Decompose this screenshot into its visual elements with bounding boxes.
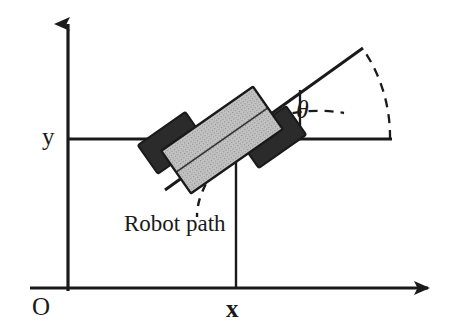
robot-pose-figure: y O x θ Robot path [0, 0, 459, 325]
y-axis-label: y [42, 124, 55, 149]
diagram-canvas [0, 0, 459, 325]
origin-label: O [32, 294, 50, 319]
robot-vehicle [138, 63, 306, 218]
robot-path-label: Robot path [124, 212, 226, 235]
heading-angle-label: θ [296, 97, 309, 123]
x-axis-label: x [226, 296, 239, 321]
theta-dashed-arc [363, 49, 390, 139]
